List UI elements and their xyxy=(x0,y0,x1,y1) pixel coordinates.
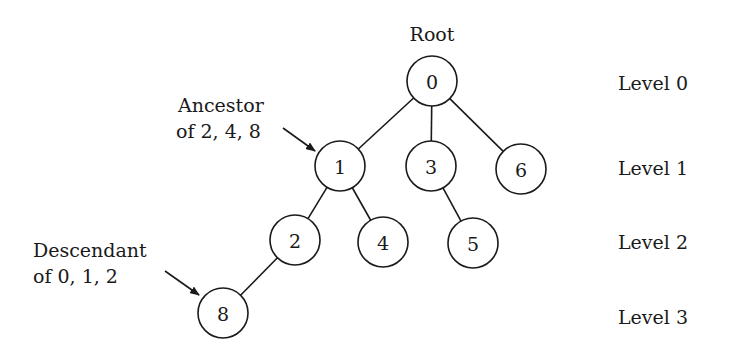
node-label: 6 xyxy=(515,159,527,181)
level-labels: Level 0Level 1Level 2Level 3 xyxy=(618,72,688,328)
level-label-3: Level 3 xyxy=(618,306,688,328)
ancestor-label-line2: of 2, 4, 8 xyxy=(176,120,261,142)
edge-2-8 xyxy=(241,258,278,295)
node-label: 2 xyxy=(289,230,301,252)
level-label-2: Level 2 xyxy=(618,231,688,253)
tree-node-3: 3 xyxy=(406,141,456,191)
edge-0-6 xyxy=(450,99,503,152)
descendant-annotation: Descendant of 0, 1, 2 xyxy=(33,239,199,295)
tree-node-4: 4 xyxy=(358,217,408,267)
ancestor-label-line1: Ancestor xyxy=(177,94,265,116)
edge-1-2 xyxy=(308,187,327,218)
tree-diagram: Root 01362458 Ancestor of 2, 4, 8 Descen… xyxy=(0,0,729,355)
tree-node-1: 1 xyxy=(315,141,365,191)
node-label: 1 xyxy=(334,156,346,178)
node-label: 0 xyxy=(426,71,438,93)
level-label-1: Level 1 xyxy=(618,157,688,179)
tree-node-6: 6 xyxy=(496,144,546,194)
tree-node-8: 8 xyxy=(198,288,248,338)
tree-node-2: 2 xyxy=(270,215,320,265)
tree-node-0: 0 xyxy=(407,56,457,106)
node-label: 3 xyxy=(425,156,437,178)
edge-1-4 xyxy=(352,188,370,220)
edge-0-1 xyxy=(358,98,413,149)
ancestor-arrow-icon xyxy=(283,128,315,151)
node-label: 4 xyxy=(377,232,389,254)
ancestor-annotation: Ancestor of 2, 4, 8 xyxy=(176,94,315,151)
tree-node-5: 5 xyxy=(448,218,498,268)
descendant-arrow-icon xyxy=(165,271,199,295)
node-label: 8 xyxy=(217,303,229,325)
node-label: 5 xyxy=(467,233,479,255)
level-label-0: Level 0 xyxy=(618,72,688,94)
descendant-label-line2: of 0, 1, 2 xyxy=(33,265,118,287)
descendant-label-line1: Descendant xyxy=(33,239,147,261)
root-label: Root xyxy=(410,23,455,45)
edge-3-5 xyxy=(443,188,461,221)
